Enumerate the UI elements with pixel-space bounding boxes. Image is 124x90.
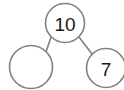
edge-root-to-right-child [79, 37, 92, 54]
node-right-child-label: 7 [101, 59, 112, 80]
tree-canvas: 10 7 [0, 0, 124, 90]
edge-root-to-left-child [46, 37, 51, 52]
node-root-label: 10 [54, 14, 75, 35]
number-bond-diagram: 10 7 [0, 0, 124, 90]
node-left-child-circle[interactable] [10, 46, 53, 89]
